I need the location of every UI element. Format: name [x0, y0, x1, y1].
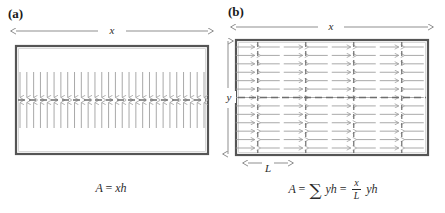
panel-b-formula: A = ∑ yh = x L yh — [222, 179, 444, 202]
panel-b-formula-frac-num: x — [352, 178, 362, 188]
panel-b-formula-frac-den: L — [352, 191, 362, 201]
panel-a: (a) — [0, 0, 222, 213]
panel-b-y-label: y — [222, 91, 236, 103]
panel-a-formula: A = xh — [0, 181, 222, 196]
figure-root: (a) — [0, 0, 445, 213]
panel-b-formula-term1: yh — [326, 182, 337, 196]
panel-b-formula-A: A — [288, 182, 295, 196]
panel-a-formula-rhs: xh — [115, 181, 126, 195]
panel-a-formula-eq: = — [106, 181, 113, 195]
panel-a-x-label: x — [98, 24, 126, 36]
panel-b-formula-eq2: = — [340, 182, 347, 196]
panel-b-formula-fraction: x L — [352, 178, 362, 201]
panel-b-formula-eq1: = — [299, 182, 306, 196]
panel-a-formula-A: A — [95, 181, 102, 195]
panel-b-formula-term2: yh — [366, 182, 377, 196]
panel-b-formula-sigma: ∑ — [309, 180, 321, 200]
panel-b-x-label: x — [318, 20, 344, 32]
panel-b: (b) — [222, 0, 444, 213]
panel-b-L-label: L — [260, 162, 276, 174]
